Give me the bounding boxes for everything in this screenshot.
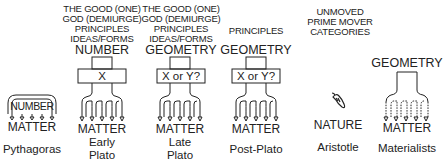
diagram-lines [0, 0, 443, 164]
principle-label: NUMBER [75, 44, 129, 57]
caption: Materialists [378, 143, 436, 155]
base-label: MATTER [156, 123, 204, 135]
base-label: MATTER [8, 121, 56, 133]
caption: Late [169, 137, 191, 149]
caption: Plato [89, 150, 115, 162]
late-plato-figure [157, 57, 205, 121]
caption: Aristotle [317, 142, 359, 154]
top-line: PRINCIPLES [229, 26, 284, 36]
principle-label: GEOMETRY [220, 44, 291, 57]
caption: Pythagoras [3, 144, 61, 156]
caption: Plato [167, 150, 193, 162]
box-label: X or Y? [237, 71, 275, 83]
base-label: MATTER [232, 123, 280, 135]
principle-label: NUMBER [10, 101, 54, 112]
post-plato-figure [232, 57, 280, 121]
box-label: X or Y? [162, 71, 200, 83]
principle-label: GEOMETRY [371, 57, 442, 70]
base-label: NATURE [314, 119, 362, 131]
materialists-figure [384, 72, 428, 121]
base-label: MATTER [383, 122, 431, 134]
top-line: CATEGORIES [310, 27, 370, 37]
base-label: MATTER [78, 123, 126, 135]
caption: Early [89, 137, 115, 149]
seed-pod-icon [332, 93, 345, 108]
caption: Post-Plato [229, 144, 282, 156]
principle-label: GEOMETRY [145, 44, 216, 57]
box-label: X [98, 71, 106, 83]
early-plato-figure [78, 57, 126, 121]
